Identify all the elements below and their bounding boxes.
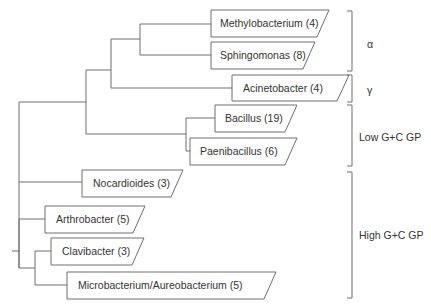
bracket-gamma: [347, 75, 352, 102]
group-label-alpha: α: [367, 38, 373, 50]
bracket-high-gc: [347, 172, 352, 298]
taxon-label-bacillus: Bacillus (19): [225, 112, 283, 124]
taxon-label-methylobacterium: Methylobacterium (4): [220, 17, 319, 29]
taxon-label-clavibacter: Clavibacter (3): [62, 245, 130, 257]
taxon-label-nocardioides: Nocardioides (3): [93, 177, 170, 189]
group-brackets: [347, 11, 352, 298]
group-label-gamma: γ: [367, 84, 372, 96]
bracket-alpha: [347, 11, 352, 71]
bracket-low-gc: [347, 105, 352, 166]
taxon-label-acinetobacter: Acinetobacter (4): [243, 82, 323, 94]
taxon-label-sphingomonas: Sphingomonas (8): [220, 49, 306, 61]
taxon-label-microbacterium: Microbacterium/Aureobacterium (5): [78, 279, 243, 291]
taxon-label-paenibacillus: Paenibacillus (6): [200, 145, 278, 157]
group-label-low-gc: Low G+C GP: [359, 131, 421, 143]
taxon-label-arthrobacter: Arthrobacter (5): [56, 213, 130, 225]
group-label-high-gc: High G+C GP: [359, 229, 423, 241]
